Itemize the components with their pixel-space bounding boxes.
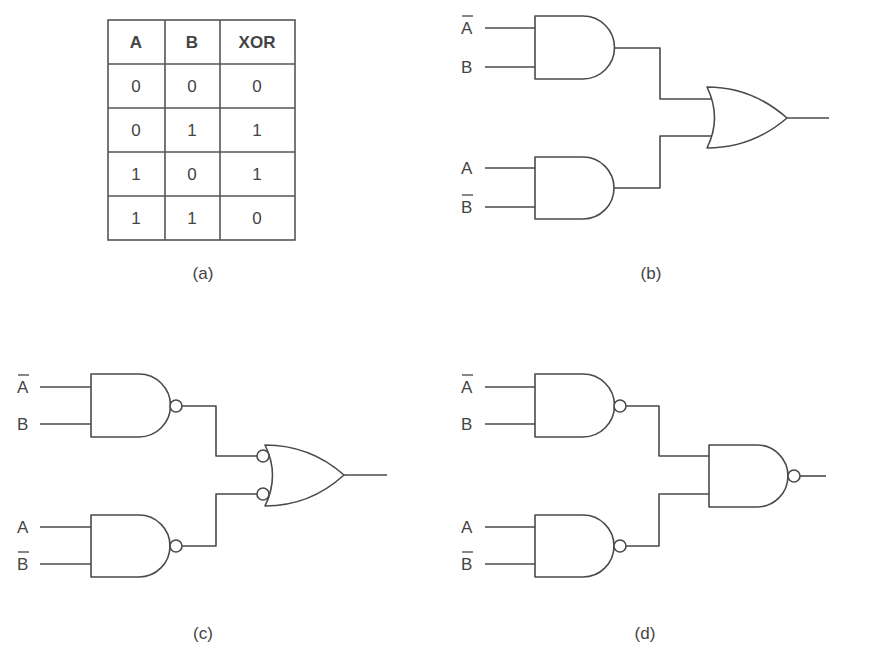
caption-c: (c) bbox=[193, 624, 213, 643]
inverter-bubble-icon bbox=[614, 400, 626, 412]
inverter-bubble-icon bbox=[257, 488, 269, 500]
cell-b: 0 bbox=[187, 165, 196, 184]
cell-b: 0 bbox=[187, 77, 196, 96]
connecting-wire bbox=[614, 136, 711, 188]
caption-d: (d) bbox=[635, 624, 656, 643]
panel-c-circuit: A B A B (c) bbox=[17, 374, 387, 643]
header-xor: XOR bbox=[239, 33, 276, 52]
input-label-a: A bbox=[17, 518, 29, 537]
inverter-bubble-icon bbox=[170, 400, 182, 412]
input-label-a-not: A bbox=[461, 378, 473, 397]
inverter-bubble-icon bbox=[614, 540, 626, 552]
panel-b-circuit: A B A B (b) bbox=[461, 16, 829, 283]
nand-gate-icon bbox=[535, 515, 614, 577]
header-b: B bbox=[186, 33, 198, 52]
cell-a: 1 bbox=[131, 209, 140, 228]
nand-gate-icon bbox=[91, 515, 170, 577]
input-label-a-not: A bbox=[461, 19, 473, 38]
nand-gate-icon bbox=[91, 374, 171, 437]
cell-xor: 0 bbox=[252, 209, 261, 228]
cell-b: 1 bbox=[187, 209, 196, 228]
connecting-wire bbox=[182, 406, 257, 456]
table-row: 1 0 1 bbox=[131, 165, 261, 184]
input-label-b-not: B bbox=[461, 555, 472, 574]
cell-xor: 1 bbox=[252, 121, 261, 140]
input-label-b: B bbox=[461, 415, 472, 434]
inverter-bubble-icon bbox=[257, 450, 269, 462]
input-label-b-not: B bbox=[461, 198, 472, 217]
or-gate-icon bbox=[265, 445, 344, 506]
header-a: A bbox=[130, 33, 142, 52]
inverter-bubble-icon bbox=[788, 470, 800, 482]
nand-gate-icon bbox=[535, 374, 615, 437]
input-label-a: A bbox=[461, 518, 473, 537]
xor-figure: A B XOR 0 0 0 0 1 1 1 0 1 1 1 0 (a) A bbox=[0, 0, 871, 649]
cell-a: 0 bbox=[131, 77, 140, 96]
connecting-wire bbox=[614, 48, 711, 99]
input-label-b: B bbox=[17, 415, 28, 434]
table-header: A B XOR bbox=[130, 33, 276, 52]
or-gate-icon bbox=[707, 87, 787, 148]
connecting-wire bbox=[626, 494, 709, 546]
input-label-b-not: B bbox=[17, 555, 28, 574]
input-label-a-not: A bbox=[17, 378, 29, 397]
cell-a: 1 bbox=[131, 165, 140, 184]
input-label-b: B bbox=[461, 58, 472, 77]
connecting-wire bbox=[626, 406, 709, 456]
table-row: 1 1 0 bbox=[131, 209, 261, 228]
table-row: 0 0 0 bbox=[131, 77, 261, 96]
inverter-bubble-icon bbox=[170, 540, 182, 552]
and-gate-icon bbox=[535, 157, 614, 219]
caption-a: (a) bbox=[193, 264, 214, 283]
cell-xor: 0 bbox=[252, 77, 261, 96]
cell-a: 0 bbox=[131, 121, 140, 140]
nand-gate-icon bbox=[709, 445, 788, 507]
caption-b: (b) bbox=[641, 264, 662, 283]
input-label-a: A bbox=[461, 159, 473, 178]
and-gate-icon bbox=[535, 16, 615, 79]
cell-b: 1 bbox=[187, 121, 196, 140]
connecting-wire bbox=[182, 494, 257, 546]
table-row: 0 1 1 bbox=[131, 121, 261, 140]
panel-d-circuit: A B A B (d) bbox=[461, 374, 826, 643]
cell-xor: 1 bbox=[252, 165, 261, 184]
panel-a-truth-table: A B XOR 0 0 0 0 1 1 1 0 1 1 1 0 (a) bbox=[108, 20, 295, 283]
